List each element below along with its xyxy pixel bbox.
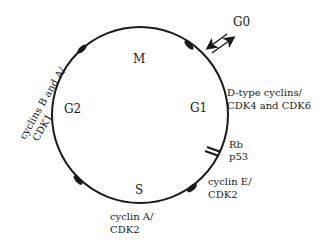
- phase-label-s: S: [135, 183, 143, 197]
- label-rb: Rb: [229, 139, 243, 150]
- cell-cycle-diagram: M G1 S G2 G0 D-type cyclins/ CDK4 and CD…: [0, 0, 327, 245]
- phase-label-g0: G0: [233, 15, 250, 29]
- phase-label-g2: G2: [64, 102, 81, 116]
- arrow-to-g1-icon: [208, 34, 227, 48]
- phase-label-m: M: [133, 52, 145, 66]
- label-p53: p53: [229, 151, 248, 162]
- label-cdk2-a: CDK2: [110, 224, 140, 235]
- arrow-to-g0-icon: [212, 38, 233, 53]
- label-cyclin-a: cyclin A/: [110, 211, 154, 222]
- label-d-type-cyclins: D-type cyclins/: [227, 87, 303, 98]
- phase-label-g1: G1: [190, 101, 207, 115]
- label-cdk4-cdk6: CDK4 and CDK6: [227, 100, 311, 111]
- label-cdk2-e: CDK2: [208, 189, 238, 200]
- label-cyclin-e: cyclin E/: [208, 176, 252, 187]
